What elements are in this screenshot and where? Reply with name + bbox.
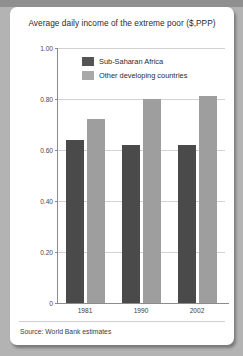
source-note: Source: World Bank estimates (20, 328, 111, 335)
x-axis-tick-label: 1981 (57, 307, 113, 314)
y-axis-tick-mark (55, 48, 58, 49)
y-axis-tick-label: 0.40 (40, 198, 53, 205)
y-axis-tick-label: 0 (49, 300, 53, 307)
y-axis-tick-mark (55, 150, 58, 151)
y-axis-tick-mark (55, 99, 58, 100)
x-axis-tick-label: 2002 (169, 307, 225, 314)
gridline (57, 48, 225, 49)
source-divider (19, 321, 225, 322)
x-axis-line (57, 303, 229, 304)
plot-area: 00.200.400.600.801.00 198119902002 (57, 48, 225, 303)
bar (199, 96, 217, 303)
chart-title: Average daily income of the extreme poor… (10, 18, 234, 28)
bar (178, 145, 196, 303)
bar (143, 99, 161, 303)
x-axis-tick-label: 1990 (113, 307, 169, 314)
y-axis-tick-mark (55, 303, 58, 304)
backdrop-top-band (0, 0, 243, 7)
y-axis-tick-mark (55, 201, 58, 202)
y-axis-tick-label: 1.00 (40, 45, 53, 52)
y-axis-tick-label: 0.60 (40, 147, 53, 154)
bar (122, 145, 140, 303)
y-axis-tick-label: 0.80 (40, 96, 53, 103)
bar (87, 119, 105, 303)
chart-card: Average daily income of the extreme poor… (10, 7, 234, 345)
y-axis-tick-label: 0.20 (40, 249, 53, 256)
bar (66, 140, 84, 303)
y-axis-tick-mark (55, 252, 58, 253)
y-axis-line (57, 48, 58, 304)
